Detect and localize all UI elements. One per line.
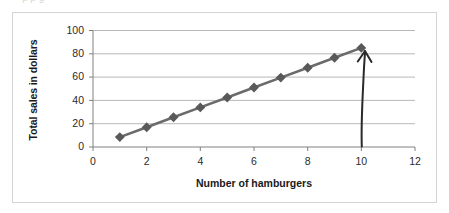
chart-page: p p g xyxy=(0,0,449,213)
data-point-8 xyxy=(303,63,313,73)
y-tick-label-20: 20 xyxy=(54,117,84,129)
x-tick-label-6: 6 xyxy=(242,155,266,167)
y-tick-label-40: 40 xyxy=(54,94,84,106)
data-point-3 xyxy=(169,112,179,122)
y-axis-ticks xyxy=(89,31,93,148)
data-point-1 xyxy=(115,132,125,142)
arrow-shaft xyxy=(362,53,365,147)
x-tick-label-2: 2 xyxy=(135,155,159,167)
y-tick-label-60: 60 xyxy=(54,70,84,82)
data-point-9 xyxy=(330,53,340,63)
x-axis-title: Number of hamburgers xyxy=(93,177,415,189)
data-point-4 xyxy=(195,102,205,112)
y-tick-label-0: 0 xyxy=(54,140,84,152)
data-point-6 xyxy=(249,83,259,93)
arrow-head-right xyxy=(365,51,372,62)
hand-drawn-arrow-annotation xyxy=(358,51,372,147)
y-axis-title-text: Total sales in dollars xyxy=(27,40,39,141)
x-tick-label-8: 8 xyxy=(296,155,320,167)
y-tick-label-80: 80 xyxy=(54,47,84,59)
x-tick-label-0: 0 xyxy=(81,155,105,167)
x-axis-ticks xyxy=(93,147,415,151)
data-point-7 xyxy=(276,73,286,83)
x-tick-label-12: 12 xyxy=(403,155,427,167)
data-point-5 xyxy=(222,93,232,103)
y-axis-title: Total sales in dollars xyxy=(24,26,42,154)
x-tick-label-4: 4 xyxy=(188,155,212,167)
y-tick-label-100: 100 xyxy=(54,24,84,36)
x-tick-label-10: 10 xyxy=(349,155,373,167)
gridlines-horizontal xyxy=(93,31,415,124)
